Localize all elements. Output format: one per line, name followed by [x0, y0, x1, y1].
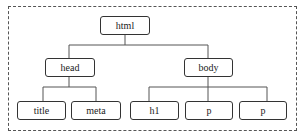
node-head: head [45, 58, 95, 77]
node-label: meta [86, 105, 105, 116]
node-label: body [199, 62, 219, 73]
node-meta: meta [71, 101, 121, 120]
node-label: head [61, 62, 80, 73]
node-label: h1 [150, 105, 160, 116]
node-html: html [100, 16, 150, 35]
node-title: title [17, 101, 66, 120]
node-label: p [207, 105, 212, 116]
node-label: p [261, 105, 266, 116]
node-p1: p [185, 101, 233, 120]
node-p2: p [239, 101, 287, 120]
node-label: title [34, 105, 50, 116]
node-label: html [116, 20, 134, 31]
node-body: body [184, 58, 233, 77]
node-h1: h1 [130, 101, 179, 120]
